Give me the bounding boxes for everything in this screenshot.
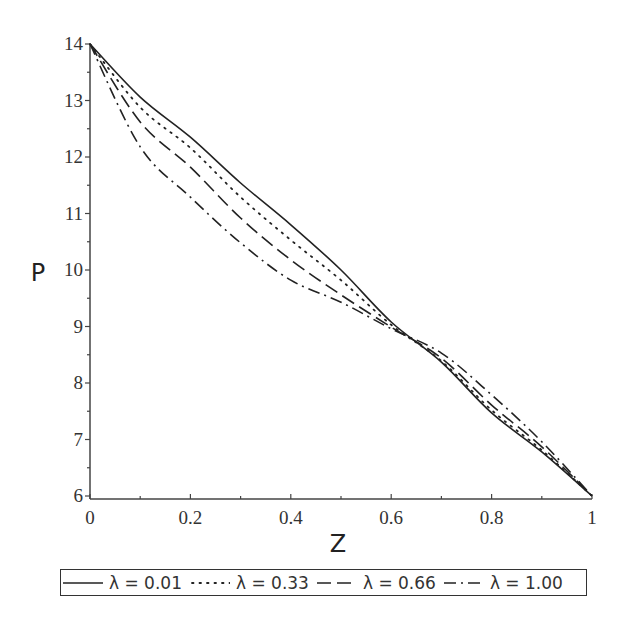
x-tick-label: 0 xyxy=(85,507,95,528)
legend-label: λ = 0.33 xyxy=(236,573,309,593)
y-tick-label: 7 xyxy=(74,429,84,450)
x-axis-title: Z xyxy=(330,530,346,558)
y-tick-label: 12 xyxy=(64,146,83,167)
legend-item-lambda-1-00: λ = 1.00 xyxy=(444,573,563,593)
line-chart: 6789101112131400.20.40.60.81 Z P xyxy=(0,0,626,565)
x-tick-label: 0.2 xyxy=(179,507,203,528)
legend-label: λ = 0.66 xyxy=(363,573,436,593)
x-tick-label: 0.8 xyxy=(480,507,504,528)
legend-item-lambda-0-01: λ = 0.01 xyxy=(63,573,182,593)
legend-label: λ = 1.00 xyxy=(490,573,563,593)
y-tick-label: 13 xyxy=(64,90,83,111)
axes: 6789101112131400.20.40.60.81 xyxy=(64,33,597,528)
y-axis-title: P xyxy=(31,259,45,287)
legend-item-lambda-0-33: λ = 0.33 xyxy=(190,573,309,593)
dashed-line-icon xyxy=(317,578,357,588)
x-tick-label: 0.4 xyxy=(279,507,303,528)
y-tick-label: 8 xyxy=(74,372,84,393)
x-tick-label: 1 xyxy=(587,507,597,528)
series-group xyxy=(90,44,592,496)
legend-label: λ = 0.01 xyxy=(109,573,182,593)
x-tick-label: 0.6 xyxy=(379,507,403,528)
series-line-solid xyxy=(90,44,592,496)
y-tick-label: 6 xyxy=(74,485,84,506)
y-tick-label: 10 xyxy=(64,259,83,280)
dotted-line-icon xyxy=(190,578,230,588)
dashdot-line-icon xyxy=(444,578,484,588)
solid-line-icon xyxy=(63,578,103,588)
legend: λ = 0.01 λ = 0.33 λ = 0.66 λ = 1.00 xyxy=(60,569,587,596)
y-tick-label: 11 xyxy=(65,203,83,224)
legend-item-lambda-0-66: λ = 0.66 xyxy=(317,573,436,593)
y-tick-label: 14 xyxy=(64,33,84,54)
y-tick-label: 9 xyxy=(74,316,84,337)
